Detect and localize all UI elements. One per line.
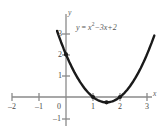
equation-equals: = bbox=[82, 23, 87, 32]
y-axis-label: y bbox=[68, 9, 71, 17]
equation-lhs: y bbox=[76, 23, 80, 32]
x-axis-label: x bbox=[153, 90, 156, 98]
y-tick-label--1: –1 bbox=[53, 115, 61, 123]
x-tick-label-2: 2 bbox=[118, 103, 122, 111]
point-vertex bbox=[104, 100, 108, 104]
parabola-graph-figure: y = x2−3x+2 –2 –1 0 1 2 3 –1 1 2 3 y x bbox=[0, 0, 161, 136]
x-tick-label--2: –2 bbox=[8, 103, 16, 111]
y-tick-label-2: 2 bbox=[58, 51, 62, 59]
y-tick-label-3: 3 bbox=[58, 30, 62, 38]
point-root-2 bbox=[118, 95, 122, 99]
parabola-curve bbox=[57, 31, 154, 102]
point-y-intercept bbox=[64, 52, 68, 56]
x-tick-label-1: 1 bbox=[91, 103, 95, 111]
y-tick-label-1: 1 bbox=[58, 72, 62, 80]
x-tick-label-3: 3 bbox=[145, 103, 149, 111]
equation-rest: −3x+2 bbox=[94, 23, 116, 32]
plot-canvas bbox=[0, 0, 161, 136]
point-root-1 bbox=[91, 95, 95, 99]
equation-annotation: y = x2−3x+2 bbox=[76, 24, 117, 32]
x-tick-label-0: 0 bbox=[57, 103, 61, 111]
x-tick-label--1: –1 bbox=[35, 103, 43, 111]
